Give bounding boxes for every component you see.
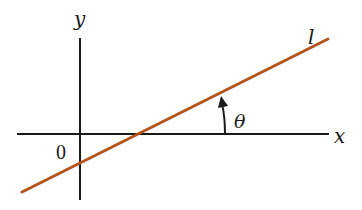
arrowhead-icon: [218, 96, 228, 108]
y-axis-label: y: [73, 7, 86, 31]
line-l: [22, 39, 328, 192]
angle-label: θ: [234, 110, 246, 132]
line-label: l: [308, 25, 314, 49]
diagram-canvas: y x 0 l θ: [0, 0, 362, 210]
angle-arc-arrow: [222, 104, 225, 134]
origin-label: 0: [56, 141, 66, 163]
x-axis-label: x: [334, 124, 345, 148]
